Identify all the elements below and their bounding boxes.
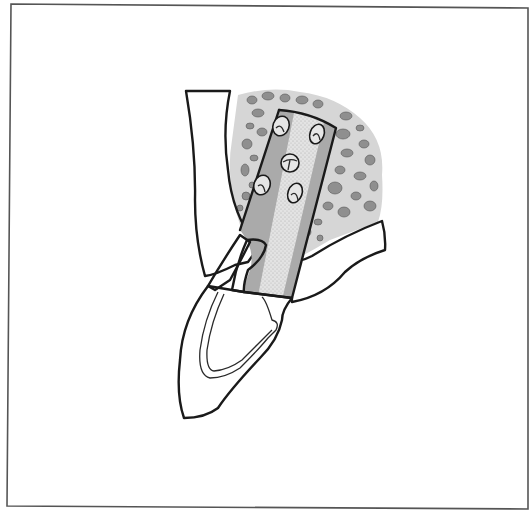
illustration-canvas — [0, 0, 530, 517]
implant-hole-3 — [281, 154, 299, 172]
crown — [179, 286, 292, 418]
